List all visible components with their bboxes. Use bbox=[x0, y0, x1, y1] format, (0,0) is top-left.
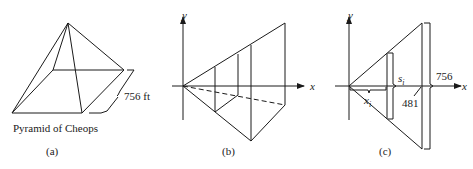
height-label: 481 bbox=[402, 97, 419, 109]
caption-c: (c) bbox=[379, 145, 392, 158]
x-axis-label: x bbox=[461, 80, 467, 92]
caption-b: (b) bbox=[222, 145, 235, 158]
base-label: 756 bbox=[436, 70, 453, 82]
slice-side-label: si bbox=[398, 72, 405, 87]
side-length-label: 756 ft bbox=[124, 90, 150, 102]
slice-position-label: xi bbox=[363, 94, 371, 109]
pyramid-drawing bbox=[12, 23, 124, 113]
y-axis-label: y bbox=[181, 9, 187, 21]
pyramid-on-axes bbox=[183, 23, 285, 141]
height-leader-line bbox=[414, 87, 421, 96]
x-axis-label: x bbox=[309, 80, 315, 92]
panel-a-pyramid: 756 ft Pyramid of Cheops (a) bbox=[12, 23, 150, 158]
figure: 756 ft Pyramid of Cheops (a) y x (b) y x bbox=[0, 0, 473, 169]
y-axis-label: y bbox=[347, 9, 353, 21]
caption-a: (a) bbox=[46, 145, 59, 158]
panel-b-axes-pyramid: y x (b) bbox=[172, 9, 315, 158]
pyramid-title: Pyramid of Cheops bbox=[13, 122, 98, 134]
panel-c-cross-section: y x si xi 481 756 (c) bbox=[335, 9, 467, 158]
